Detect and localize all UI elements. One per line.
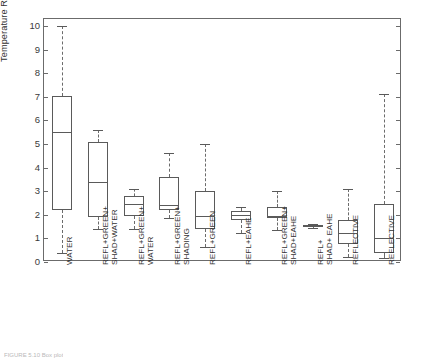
figure-caption: FIGURE 5.10 Box plot bbox=[4, 352, 63, 360]
y-tick-label: 2 bbox=[20, 208, 40, 219]
whisker-lower bbox=[277, 218, 278, 230]
x-tick-label: REFL+GREEN bbox=[208, 211, 217, 265]
whisker-lower bbox=[62, 210, 63, 252]
y-tick-mark bbox=[44, 144, 48, 145]
cap-upper bbox=[272, 191, 282, 192]
cap-upper bbox=[93, 130, 103, 131]
y-tick-mark bbox=[396, 238, 400, 239]
whisker-upper bbox=[277, 191, 278, 206]
y-tick-label: 8 bbox=[20, 67, 40, 78]
x-tick-label: REFL+GREEN+ SHAD+EAHE bbox=[280, 206, 298, 265]
median-line bbox=[231, 215, 251, 216]
y-tick-label: 10 bbox=[20, 20, 40, 31]
y-tick-mark bbox=[396, 215, 400, 216]
whisker-upper bbox=[384, 94, 385, 204]
y-tick-label: 5 bbox=[20, 138, 40, 149]
whisker-upper bbox=[134, 189, 135, 196]
cap-upper bbox=[57, 26, 67, 27]
whisker-upper bbox=[169, 153, 170, 177]
y-tick-mark bbox=[44, 120, 48, 121]
y-tick-mark bbox=[396, 120, 400, 121]
plot-area bbox=[43, 18, 401, 261]
y-tick-mark bbox=[44, 215, 48, 216]
x-tick-label: REFL+GREEN+ WATER bbox=[137, 206, 155, 265]
whisker-lower bbox=[98, 217, 99, 229]
cap-upper bbox=[379, 94, 389, 95]
y-tick-mark bbox=[396, 73, 400, 74]
y-tick-mark bbox=[44, 238, 48, 239]
y-tick-label: 9 bbox=[20, 43, 40, 54]
whisker-lower bbox=[241, 220, 242, 233]
y-tick-mark bbox=[396, 168, 400, 169]
y-tick-mark bbox=[44, 97, 48, 98]
median-line bbox=[88, 182, 108, 183]
y-tick-mark bbox=[396, 144, 400, 145]
whisker-upper bbox=[205, 144, 206, 191]
y-tick-label: 1 bbox=[20, 232, 40, 243]
y-tick-mark bbox=[44, 26, 48, 27]
figure-box-plot: Temperature Reduction (ºC) 012345678910 … bbox=[0, 0, 426, 360]
cap-upper bbox=[236, 207, 246, 208]
y-tick-mark bbox=[396, 26, 400, 27]
y-tick-mark bbox=[44, 50, 48, 51]
whisker-upper bbox=[62, 26, 63, 96]
cap-upper bbox=[164, 153, 174, 154]
whisker-lower bbox=[348, 244, 349, 257]
x-tick-label: REFL+GREEN+ SHADING bbox=[173, 206, 191, 265]
x-tick-label: REFL+ SHAD+ EAHE bbox=[316, 213, 334, 265]
box-plot-item bbox=[52, 19, 72, 260]
whisker-lower bbox=[134, 216, 135, 229]
median-line bbox=[52, 132, 72, 133]
x-tick-label: REFL+GREEN+ SHAD+WATER bbox=[101, 206, 119, 265]
x-tick-label: REFLECTIVE bbox=[351, 215, 360, 265]
y-tick-mark bbox=[44, 73, 48, 74]
x-tick-label: REFLECTIVE bbox=[387, 215, 396, 265]
whisker-upper bbox=[98, 130, 99, 142]
cap-upper bbox=[129, 189, 139, 190]
whisker-upper bbox=[348, 189, 349, 220]
cap-upper bbox=[343, 189, 353, 190]
y-axis-label: Temperature Reduction (ºC) bbox=[0, 0, 9, 62]
box-iqr bbox=[52, 96, 72, 210]
whisker-lower bbox=[205, 229, 206, 247]
y-tick-mark bbox=[44, 168, 48, 169]
y-tick-label: 7 bbox=[20, 90, 40, 101]
whisker-lower bbox=[169, 210, 170, 218]
y-tick-mark bbox=[44, 191, 48, 192]
y-axis-tick-labels: 012345678910 bbox=[20, 18, 40, 261]
y-tick-label: 3 bbox=[20, 185, 40, 196]
cap-upper bbox=[200, 144, 210, 145]
y-tick-mark bbox=[396, 97, 400, 98]
y-tick-mark bbox=[396, 262, 400, 263]
y-tick-label: 4 bbox=[20, 161, 40, 172]
y-tick-mark bbox=[396, 191, 400, 192]
x-tick-label: REFL+EAHE bbox=[244, 218, 253, 265]
x-tick-label: WATER bbox=[65, 237, 74, 265]
y-tick-mark bbox=[396, 50, 400, 51]
y-tick-mark bbox=[44, 262, 48, 263]
y-tick-label: 6 bbox=[20, 114, 40, 125]
y-tick-label: 0 bbox=[20, 256, 40, 267]
